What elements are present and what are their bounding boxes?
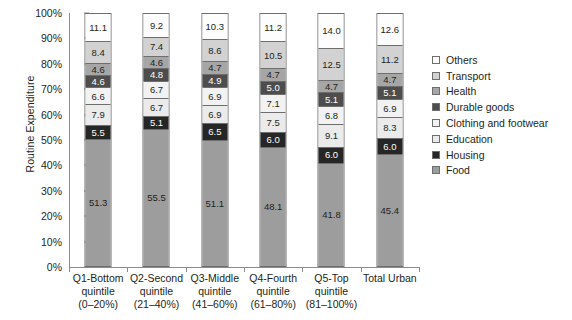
bar-segment-value-label: 5.0 xyxy=(267,83,280,93)
legend-item[interactable]: Food xyxy=(432,163,572,179)
bar-segment-value-label: 7.9 xyxy=(92,110,105,120)
bar-segment[interactable]: 6.0 xyxy=(261,132,286,148)
x-axis-category-label-line: (81–100%) xyxy=(296,298,366,311)
bar-segment[interactable]: 5.1 xyxy=(319,92,344,106)
bar-segment[interactable]: 7.9 xyxy=(86,104,111,124)
bar-segment[interactable]: 6.6 xyxy=(86,87,111,104)
bar-segment-value-label: 11.2 xyxy=(381,55,399,65)
bar-segment-value-label: 7.4 xyxy=(150,42,163,52)
bar-segment-value-label: 6.0 xyxy=(325,150,338,160)
bar-segment[interactable]: 6.0 xyxy=(377,138,402,154)
legend-item-label: Health xyxy=(446,85,476,97)
bar-segment-value-label: 9.2 xyxy=(150,21,163,31)
bar-segment[interactable]: 7.5 xyxy=(261,112,286,131)
bar-stack[interactable]: 12.611.24.75.16.98.36.045.4 xyxy=(376,13,403,267)
bar-segment-value-label: 4.6 xyxy=(150,58,163,68)
legend-item[interactable]: Clothing and footwear xyxy=(432,115,572,131)
bar-segment[interactable]: 41.8 xyxy=(319,163,344,266)
bar-segment-value-label: 12.5 xyxy=(322,60,341,70)
y-axis-tick-label: 0% xyxy=(20,261,62,273)
bar-segment[interactable]: 11.1 xyxy=(86,14,111,41)
bar-slot: 10.38.64.74.96.96.96.551.1 xyxy=(186,13,244,267)
bar-stack[interactable]: 11.18.44.64.66.67.95.551.3 xyxy=(85,13,112,267)
bar-stack[interactable]: 14.012.54.75.16.89.16.041.8 xyxy=(318,13,345,267)
legend-item[interactable]: Transport xyxy=(432,68,572,84)
bar-segment-value-label: 8.6 xyxy=(208,46,221,56)
bar-segment[interactable]: 4.6 xyxy=(86,75,111,87)
bar-segment-value-label: 6.0 xyxy=(267,135,280,145)
bar-segment[interactable]: 4.6 xyxy=(144,56,169,68)
bar-segment[interactable]: 7.1 xyxy=(261,94,286,112)
bar-segment-value-label: 6.8 xyxy=(325,111,338,121)
bar-segment[interactable]: 4.7 xyxy=(377,73,402,85)
legend-item[interactable]: Education xyxy=(432,131,572,147)
bar-segment-value-label: 51.1 xyxy=(206,199,225,209)
legend-item[interactable]: Others xyxy=(432,52,572,68)
bar-segment[interactable]: 55.5 xyxy=(144,129,169,266)
bar-segment[interactable]: 6.8 xyxy=(319,106,344,124)
bar-segment-value-label: 6.0 xyxy=(383,142,396,152)
bar-segment-value-label: 11.2 xyxy=(264,23,282,33)
bar-segment[interactable]: 4.9 xyxy=(202,74,227,87)
bar-segment[interactable]: 6.9 xyxy=(202,87,227,105)
legend-swatch-icon xyxy=(432,103,440,111)
legend-item[interactable]: Health xyxy=(432,84,572,100)
bar-segment-value-label: 5.1 xyxy=(325,95,338,105)
legend-swatch-icon xyxy=(432,119,440,127)
bar-segment[interactable]: 8.4 xyxy=(86,41,111,63)
bar-segment[interactable]: 6.9 xyxy=(377,99,402,117)
bar-segment[interactable]: 10.3 xyxy=(202,14,227,39)
bar-segment[interactable]: 12.5 xyxy=(319,48,344,80)
bar-segment-value-label: 6.9 xyxy=(383,104,396,114)
bar-segment-value-label: 48.1 xyxy=(264,202,283,212)
bar-segment-value-label: 8.4 xyxy=(92,48,105,58)
bar-segment-value-label: 4.7 xyxy=(383,75,396,85)
bar-segment[interactable]: 4.7 xyxy=(319,80,344,93)
bar-segment-value-label: 10.5 xyxy=(264,51,283,61)
bar-segment[interactable]: 6.7 xyxy=(144,98,169,115)
bar-segment[interactable]: 51.1 xyxy=(202,140,227,266)
bar-stack[interactable]: 9.27.44.64.86.76.75.155.5 xyxy=(143,13,170,267)
bar-segment-value-label: 5.5 xyxy=(92,128,105,138)
bar-segment-value-label: 6.5 xyxy=(208,127,221,137)
bar-segment[interactable]: 6.9 xyxy=(202,105,227,123)
bar-segment-value-label: 6.7 xyxy=(150,85,163,95)
bar-segment[interactable]: 4.7 xyxy=(202,61,227,74)
bar-segment[interactable]: 12.6 xyxy=(377,14,402,45)
y-axis-tick-label: 60% xyxy=(20,109,62,121)
bar-segment[interactable]: 7.4 xyxy=(144,37,169,56)
bar-slot: 11.18.44.64.66.67.95.551.3 xyxy=(69,13,127,267)
legend-item-label: Clothing and footwear xyxy=(446,117,548,129)
legend-item-label: Housing xyxy=(446,149,485,161)
bar-segment-value-label: 55.5 xyxy=(147,193,166,203)
bar-segment[interactable]: 5.5 xyxy=(86,125,111,139)
bar-segment[interactable]: 4.7 xyxy=(261,68,286,81)
bar-segment[interactable]: 10.5 xyxy=(261,41,286,68)
bar-segment[interactable]: 45.4 xyxy=(377,154,402,266)
bar-segment[interactable]: 11.2 xyxy=(261,14,286,41)
bar-segment[interactable]: 6.5 xyxy=(202,123,227,140)
y-axis-tick-labels: 0%10%20%30%40%50%60%70%80%90%100% xyxy=(20,0,62,280)
y-axis-tick-label: 10% xyxy=(20,236,62,248)
legend-item[interactable]: Housing xyxy=(432,147,572,163)
bar-segment[interactable]: 9.2 xyxy=(144,14,169,37)
bar-segment[interactable]: 8.3 xyxy=(377,117,402,138)
bar-segment[interactable]: 48.1 xyxy=(261,147,286,266)
bar-stack[interactable]: 10.38.64.74.96.96.96.551.1 xyxy=(201,13,228,267)
bar-segment[interactable]: 4.8 xyxy=(144,68,169,81)
bar-segment[interactable]: 11.2 xyxy=(377,45,402,73)
bar-segment[interactable]: 4.6 xyxy=(86,63,111,75)
bar-segment[interactable]: 8.6 xyxy=(202,39,227,61)
bar-segment[interactable]: 6.0 xyxy=(319,147,344,163)
legend-swatch-icon xyxy=(432,56,440,64)
bar-segment[interactable]: 5.1 xyxy=(377,86,402,99)
legend-item[interactable]: Durable goods xyxy=(432,99,572,115)
bar-segment[interactable]: 14.0 xyxy=(319,14,344,48)
bar-segment[interactable]: 51.3 xyxy=(86,139,111,266)
bar-segment[interactable]: 5.1 xyxy=(144,116,169,130)
bar-segment[interactable]: 6.7 xyxy=(144,81,169,98)
bar-segment[interactable]: 9.1 xyxy=(319,124,344,147)
bar-segment-value-label: 4.6 xyxy=(92,65,105,75)
bar-segment[interactable]: 5.0 xyxy=(261,81,286,94)
bar-stack[interactable]: 11.210.54.75.07.17.56.048.1 xyxy=(260,13,287,267)
